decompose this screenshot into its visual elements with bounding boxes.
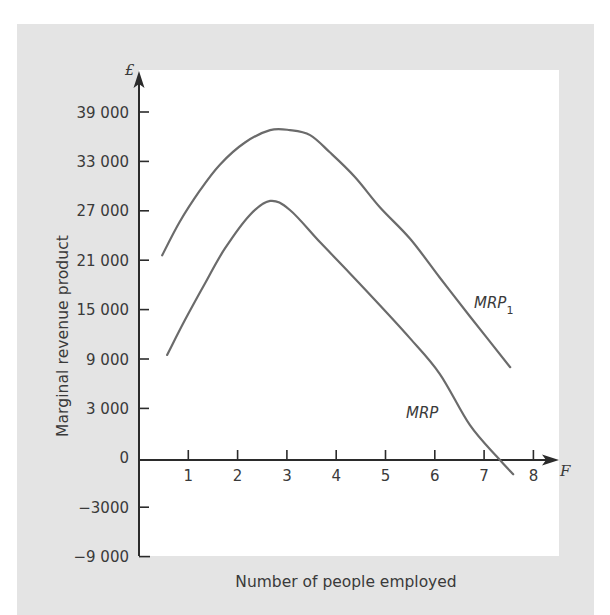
x-tick-label: 8 [529, 467, 539, 485]
chart: 39 00033 00027 00021 00015 0009 0003 000… [0, 0, 610, 615]
curve-mrp [167, 201, 513, 475]
y-tick-label: 9 000 [86, 351, 129, 369]
x-tick-label: 4 [331, 467, 341, 485]
x-tick-label: 2 [233, 467, 243, 485]
y-tick-label: 27 000 [77, 202, 130, 220]
y-tick-label: 33 000 [77, 153, 130, 171]
x-axis-label: Number of people employed [235, 573, 456, 591]
y-tick-label: −3000 [78, 499, 129, 517]
x-tick-label: 3 [282, 467, 292, 485]
x-axis-symbol: F [559, 462, 571, 480]
x-tick-label: 6 [430, 467, 440, 485]
y-tick-label: 39 000 [77, 104, 130, 122]
y-tick-label: 15 000 [77, 301, 130, 319]
y-axis-symbol: £ [124, 61, 135, 79]
curve-label-mrp: MRP [406, 404, 439, 422]
y-tick-label: −9 000 [73, 548, 129, 566]
curve-mrp1 [162, 129, 510, 367]
y-tick-label: 21 000 [77, 252, 130, 270]
y-axis-label: Marginal revenue product [54, 235, 72, 437]
x-tick-label: 7 [479, 467, 489, 485]
y-tick-label: 3 000 [86, 400, 129, 418]
x-tick-label: 1 [184, 467, 194, 485]
y-tick-label: 0 [119, 449, 129, 467]
x-axis-ticks: 12345678 [184, 450, 539, 485]
x-tick-label: 5 [381, 467, 391, 485]
curve-label-mrp1: MRP1 [474, 294, 513, 317]
curves [162, 129, 513, 474]
